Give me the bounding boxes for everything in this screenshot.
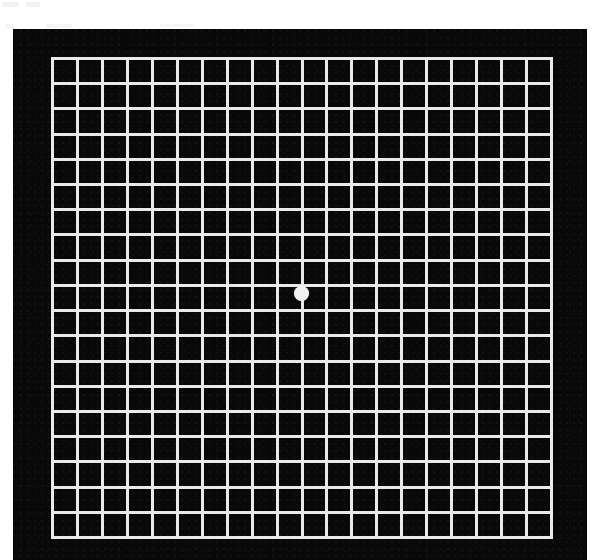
grid-line-vertical <box>251 57 254 539</box>
grid-line-horizontal <box>51 82 553 85</box>
amsler-grid-figure <box>0 0 593 560</box>
grid-line-vertical <box>425 57 428 539</box>
amsler-grid-plot <box>51 57 553 539</box>
grid-line-vertical <box>525 57 528 539</box>
grid-line-vertical <box>176 57 179 539</box>
grid-line-horizontal <box>51 133 553 136</box>
grid-line-horizontal <box>51 309 553 312</box>
scan-artifact <box>46 24 72 28</box>
grid-line-vertical <box>500 57 503 539</box>
scan-artifact <box>160 24 194 27</box>
grid-line-vertical <box>151 57 154 539</box>
grid-line-horizontal <box>51 233 553 236</box>
grid-line-vertical <box>450 57 453 539</box>
grid-line-vertical <box>550 57 553 539</box>
grid-line-vertical <box>375 57 378 539</box>
grid-line-horizontal <box>51 511 553 514</box>
grid-line-horizontal <box>51 183 553 186</box>
scan-artifact <box>26 2 40 7</box>
grid-line-vertical <box>51 57 54 539</box>
grid-line-vertical <box>475 57 478 539</box>
grid-line-horizontal <box>51 158 553 161</box>
central-fixation-dot <box>294 286 309 301</box>
grid-line-vertical <box>76 57 79 539</box>
grid-line-horizontal <box>51 57 553 60</box>
grid-line-horizontal <box>51 107 553 110</box>
grid-line-vertical <box>226 57 229 539</box>
grid-line-horizontal <box>51 259 553 262</box>
grid-line-vertical <box>126 57 129 539</box>
grid-line-horizontal <box>51 460 553 463</box>
grid-line-vertical <box>350 57 353 539</box>
scan-artifact <box>3 2 19 7</box>
grid-line-vertical <box>325 57 328 539</box>
scan-artifact <box>5 24 15 28</box>
grid-card-background <box>13 29 593 560</box>
grid-line-horizontal <box>51 486 553 489</box>
grid-line-vertical <box>101 57 104 539</box>
grid-line-horizontal <box>51 360 553 363</box>
grid-line-vertical <box>201 57 204 539</box>
grid-line-horizontal <box>51 536 553 539</box>
grid-line-horizontal <box>51 208 553 211</box>
grid-line-horizontal <box>51 334 553 337</box>
grid-line-vertical <box>276 57 279 539</box>
grid-line-vertical <box>400 57 403 539</box>
grid-line-horizontal <box>51 410 553 413</box>
grid-line-horizontal <box>51 385 553 388</box>
paper-margin-right <box>587 0 593 560</box>
grid-line-horizontal <box>51 435 553 438</box>
